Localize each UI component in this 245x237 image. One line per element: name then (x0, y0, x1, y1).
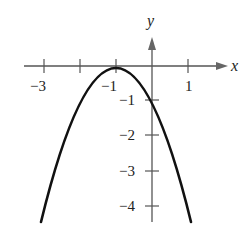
x-tick-label-neg1: −1 (101, 78, 117, 94)
y-tick-label-neg2: −2 (119, 127, 135, 143)
y-axis-label: y (145, 12, 155, 30)
y-tick-label-neg3: −3 (119, 163, 135, 179)
parabola-graph: y x −3 −1 1 −1 −2 −3 −4 (0, 0, 245, 237)
x-axis-arrow-icon (216, 62, 228, 70)
x-tick-label-pos1: 1 (185, 78, 193, 94)
y-tick-label-neg4: −4 (119, 198, 135, 214)
y-axis-arrow-icon (148, 37, 156, 50)
y-tick-label-neg1: −1 (119, 92, 135, 108)
x-axis-label: x (230, 57, 238, 74)
x-tick-label-neg3: −3 (30, 78, 46, 94)
